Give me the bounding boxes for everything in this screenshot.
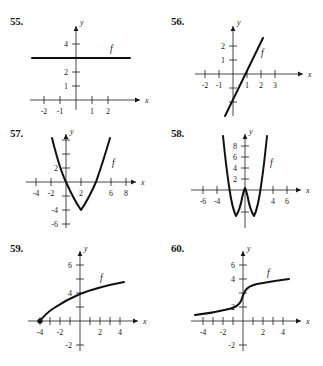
graph-60: -4 -2 2 4 2 4 6 -2 [181, 239, 323, 361]
x-tick-label: 2 [98, 328, 102, 337]
x-ticks-60: -4 -2 2 4 [200, 317, 285, 337]
y-tick-label: -2 [228, 341, 235, 350]
x-axis-label-59: x [142, 317, 147, 326]
problem-panel-56: 56. -2 -1 [159, 12, 323, 124]
x-tick-label: -2 [57, 328, 64, 337]
graph-55: -2 -1 1 2 1 2 4 f x [18, 12, 158, 120]
y-ticks-56: 1 2 [221, 42, 237, 102]
function-curve-59 [40, 282, 124, 321]
problem-number-56: 56. [171, 15, 184, 27]
graph-59: -4 -2 2 4 4 6 -2 [18, 239, 158, 361]
y-tick-label: 4 [231, 275, 235, 284]
axes-56 [195, 26, 303, 116]
x-tick-label: 4 [271, 197, 275, 206]
function-label-59: f [100, 273, 104, 283]
x-tick-label: -4 [33, 189, 40, 198]
function-curve-57 [52, 138, 110, 210]
y-tick-label: 1 [64, 82, 68, 91]
axes-58 [191, 134, 301, 228]
x-tick-label: 3 [273, 81, 277, 90]
y-tick-label: 2 [221, 42, 225, 51]
problem-panel-55: 55. -2 -1 1 [0, 12, 161, 124]
x-tick-label: 2 [106, 107, 110, 116]
function-label-57: f [112, 158, 116, 168]
x-tick-label: 4 [281, 328, 285, 337]
y-tick-label: 2 [233, 175, 237, 184]
function-label-56: f [261, 48, 265, 58]
x-tick-label: -2 [220, 328, 227, 337]
x-tick-label: -2 [41, 107, 48, 116]
function-curve-56 [225, 38, 263, 116]
y-axis-label-58: y [248, 127, 253, 136]
x-tick-label: -4 [200, 328, 207, 337]
function-curve-60 [195, 279, 289, 315]
y-ticks-55: 1 2 4 [64, 40, 80, 91]
x-axis-label-56: x [307, 70, 312, 79]
function-label-58: f [270, 158, 274, 168]
x-tick-label: 2 [259, 81, 263, 90]
x-axis-label-58: x [305, 186, 310, 195]
x-tick-label: 6 [109, 189, 113, 198]
x-ticks-59: -4 -2 2 4 [37, 317, 122, 337]
problem-panel-59: 59. [0, 239, 161, 366]
x-tick-label: -4 [37, 328, 44, 337]
x-axis-label-57: x [140, 178, 145, 187]
x-tick-label: 8 [124, 189, 128, 198]
y-axis-label-60: y [246, 244, 251, 253]
problem-panel-60: 60. [159, 239, 323, 366]
graph-57: -4 -2 2 6 8 2 -4 [18, 124, 158, 236]
y-tick-label: 6 [68, 261, 72, 270]
x-tick-label: -1 [57, 107, 64, 116]
y-axis-label-55: y [79, 18, 84, 27]
y-tick-label: 2 [54, 164, 58, 173]
y-tick-label: 2 [64, 68, 68, 77]
problem-grid: 55. -2 -1 1 [0, 12, 323, 366]
y-tick-label: -2 [65, 341, 72, 350]
axes-55 [30, 26, 140, 110]
x-tick-label: -4 [214, 197, 221, 206]
y-ticks-59: 4 6 -2 [65, 261, 84, 350]
y-axis-label-56: y [236, 18, 241, 27]
problem-panel-57: 57. -4 -2 [0, 124, 161, 239]
y-tick-label: 6 [233, 153, 237, 162]
y-axis-label-57: y [69, 127, 74, 136]
y-tick-label: 4 [64, 40, 68, 49]
y-tick-label: 8 [233, 142, 237, 151]
x-tick-label: -2 [202, 81, 209, 90]
x-tick-label: 6 [285, 197, 289, 206]
function-label-55: f [110, 44, 114, 54]
y-tick-label: 6 [231, 261, 235, 270]
x-tick-label: 1 [245, 81, 249, 90]
y-axis-label-59: y [83, 244, 88, 253]
x-axis-label-60: x [305, 317, 310, 326]
problem-panel-58: 58. -6 -4 4 [159, 124, 323, 239]
x-tick-label: -6 [200, 197, 207, 206]
x-ticks-55: -2 -1 1 2 [41, 96, 110, 116]
y-tick-label: 4 [68, 289, 72, 298]
y-tick-label: 4 [233, 164, 237, 173]
graph-58: -6 -4 4 6 2 4 6 8 [181, 124, 323, 236]
graph-56: -2 -1 1 2 3 1 2 f [185, 12, 323, 122]
x-axis-label-55: x [144, 96, 149, 105]
endpoint-dot-59 [37, 318, 42, 323]
x-tick-label: 4 [118, 328, 122, 337]
x-tick-label: 2 [261, 328, 265, 337]
textbook-exercise-page: 55. -2 -1 1 [0, 0, 323, 366]
x-tick-label: 1 [90, 107, 94, 116]
x-tick-label: -1 [216, 81, 223, 90]
y-tick-label: -6 [51, 220, 58, 229]
x-tick-label: -2 [48, 189, 55, 198]
y-tick-label: 1 [221, 56, 225, 65]
x-tick-label: 2 [79, 189, 83, 198]
x-ticks-57: -4 -2 2 6 8 [33, 178, 128, 198]
function-label-60: f [267, 268, 271, 278]
y-tick-label: -4 [51, 206, 58, 215]
